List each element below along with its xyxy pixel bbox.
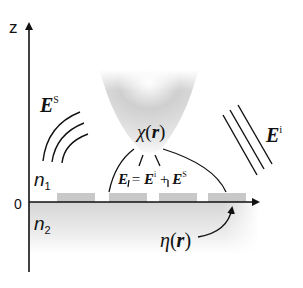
scattered-field-label: ES [39, 94, 59, 116]
origin-label: 0 [14, 196, 22, 212]
surface-profile-label: η(r) [160, 229, 191, 252]
substrate-region [29, 202, 259, 254]
medium-1-label: n1 [34, 169, 51, 192]
surface-feature-1 [57, 193, 95, 202]
incident-wavefronts [223, 105, 272, 175]
surface-feature-3 [159, 193, 197, 202]
scattered-wavefronts [43, 112, 88, 163]
incident-field-label: Ei [265, 123, 282, 146]
surface-features [57, 193, 246, 202]
total-field-equation: E = Ei + ES [117, 170, 187, 187]
near-field-scattering-diagram: z 0 ES Ei χ(r) E = Ei + ES n1 n2 η(r) [0, 0, 303, 288]
surface-feature-2 [109, 193, 147, 202]
surface-feature-4 [208, 193, 246, 202]
susceptibility-label: χ(r) [135, 121, 165, 143]
z-axis-label: z [9, 18, 18, 37]
